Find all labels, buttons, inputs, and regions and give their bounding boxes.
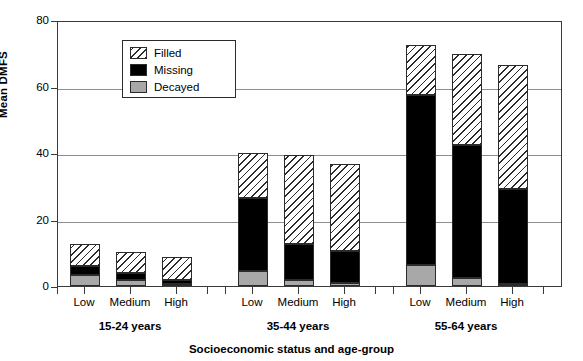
x-tick-mark	[298, 287, 299, 294]
legend-entry: Filled	[130, 45, 235, 61]
bar-segment-filled	[70, 244, 100, 266]
x-category-label: High	[472, 296, 552, 308]
legend-entry: Missing	[130, 62, 235, 78]
y-tick-label: 60	[13, 81, 49, 93]
bar-segment-missing	[70, 266, 100, 275]
x-group-label: 35-44 years	[228, 320, 368, 332]
bar-segment-decayed	[284, 280, 314, 286]
x-tick-mark	[225, 287, 226, 294]
y-tick-label: 20	[13, 214, 49, 226]
stacked-bar	[70, 244, 100, 286]
y-tick-label: 0	[13, 280, 49, 292]
y-axis-label: Mean DMFS	[0, 51, 9, 118]
y-tick-label: 80	[13, 14, 49, 26]
bar-segment-filled	[238, 153, 268, 198]
bar-segment-decayed	[116, 280, 146, 286]
black-swatch	[130, 64, 147, 76]
x-tick-mark	[512, 287, 513, 294]
x-category-label: High	[304, 296, 384, 308]
y-tick-label: 40	[13, 147, 49, 159]
bar-segment-missing	[406, 95, 436, 265]
bar-segment-decayed	[406, 265, 436, 286]
x-tick-mark	[543, 287, 544, 294]
bar-segment-decayed	[70, 275, 100, 286]
bar-segment-decayed	[330, 283, 360, 286]
stacked-bar	[406, 45, 436, 286]
bar-segment-filled	[162, 257, 192, 280]
stacked-bar	[498, 65, 528, 286]
stacked-bar	[330, 164, 360, 286]
stacked-bar	[452, 54, 482, 286]
bar-segment-filled	[116, 252, 146, 274]
bar-segment-missing	[284, 244, 314, 280]
bar-segment-decayed	[238, 271, 268, 286]
stacked-bar	[162, 257, 192, 286]
x-tick-mark	[375, 287, 376, 294]
bar-segment-filled	[406, 45, 436, 96]
plot-area: Filled Missing Decayed	[57, 21, 562, 287]
x-group-label: 55-64 years	[396, 320, 536, 332]
hatch-swatch	[130, 47, 147, 59]
x-tick-mark	[466, 287, 467, 294]
x-tick-mark	[84, 287, 85, 294]
x-tick-mark	[252, 287, 253, 294]
bar-segment-filled	[452, 54, 482, 146]
bar-segment-filled	[284, 155, 314, 244]
bar-segment-missing	[238, 198, 268, 271]
bar-segment-decayed	[498, 284, 528, 286]
bar-segment-missing	[116, 273, 146, 280]
bar-segment-missing	[330, 251, 360, 283]
x-category-label: High	[136, 296, 216, 308]
legend-label: Filled	[154, 47, 181, 59]
x-tick-mark	[420, 287, 421, 294]
gray-swatch	[130, 81, 147, 93]
bar-segment-missing	[162, 280, 192, 284]
bar-segment-missing	[498, 189, 528, 284]
x-tick-mark	[207, 287, 208, 294]
stacked-bar	[284, 155, 314, 286]
x-tick-mark	[344, 287, 345, 294]
x-axis-label: Socioeconomic status and age-group	[0, 343, 583, 355]
bar-segment-filled	[498, 65, 528, 189]
legend-label: Decayed	[154, 81, 199, 93]
chart-figure: Mean DMFS 020406080 Filled Missing Decay…	[0, 0, 583, 361]
legend: Filled Missing Decayed	[122, 40, 236, 98]
bar-segment-missing	[452, 145, 482, 278]
x-tick-mark	[130, 287, 131, 294]
bar-segment-decayed	[452, 278, 482, 286]
x-tick-mark	[393, 287, 394, 294]
stacked-bar	[116, 252, 146, 286]
x-tick-mark	[57, 287, 58, 294]
x-group-label: 15-24 years	[60, 320, 200, 332]
legend-label: Missing	[154, 64, 193, 76]
bar-segment-filled	[330, 164, 360, 251]
stacked-bar	[238, 153, 268, 286]
x-tick-mark	[176, 287, 177, 294]
legend-entry: Decayed	[130, 79, 235, 95]
